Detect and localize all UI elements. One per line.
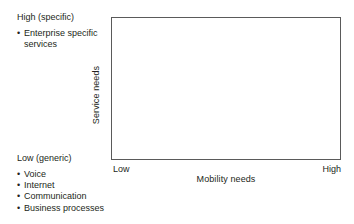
bullet-icon: •	[17, 203, 20, 214]
y-axis-label: Service needs	[91, 66, 101, 124]
bullet-icon: •	[17, 169, 20, 180]
annotation-heading-high: High (specific)	[17, 12, 111, 23]
annotation-item-text: Communication	[24, 191, 111, 202]
bullet-icon: •	[17, 191, 20, 202]
annotation-item-text: Enterprise specific	[24, 28, 111, 39]
annotation-item-text: Business processes	[24, 203, 111, 214]
annotation-list-low: • Voice • Internet • Communication • Bus…	[17, 169, 111, 214]
annotation-item-text: Internet	[24, 180, 111, 191]
list-item: • Voice	[17, 169, 111, 180]
x-axis-label: Mobility needs	[111, 174, 341, 184]
annotation-group-low: Low (generic) • Voice • Internet • Commu…	[17, 153, 111, 214]
list-item: • Communication	[17, 191, 111, 202]
bullet-icon: •	[17, 28, 20, 39]
quadrant-figure: Service needs Mobility needs Low High Hi…	[0, 0, 354, 224]
annotation-list-high: • Enterprise specific services	[17, 28, 111, 50]
list-item: • Business processes	[17, 203, 111, 214]
plot-area-frame	[111, 17, 341, 160]
list-item: • Enterprise specific services	[17, 28, 111, 50]
annotation-item-text: Voice	[24, 169, 111, 180]
list-item: • Internet	[17, 180, 111, 191]
annotation-group-high: High (specific) • Enterprise specific se…	[17, 12, 111, 50]
annotation-heading-low: Low (generic)	[17, 153, 111, 164]
bullet-icon: •	[17, 180, 20, 191]
annotation-item-text-continued: services	[24, 39, 111, 50]
